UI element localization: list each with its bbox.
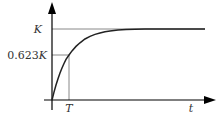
k-tick-label: K [33, 23, 43, 36]
response-curve [52, 29, 205, 100]
k623-tick-label: 0.623K [7, 49, 48, 62]
t-constant-label: T [65, 102, 74, 115]
y-axis-arrow-icon [48, 2, 56, 14]
x-axis-arrow-icon [204, 96, 216, 104]
step-response-chart: K 0.623K T t [0, 0, 219, 118]
time-axis-label: t [189, 102, 194, 115]
